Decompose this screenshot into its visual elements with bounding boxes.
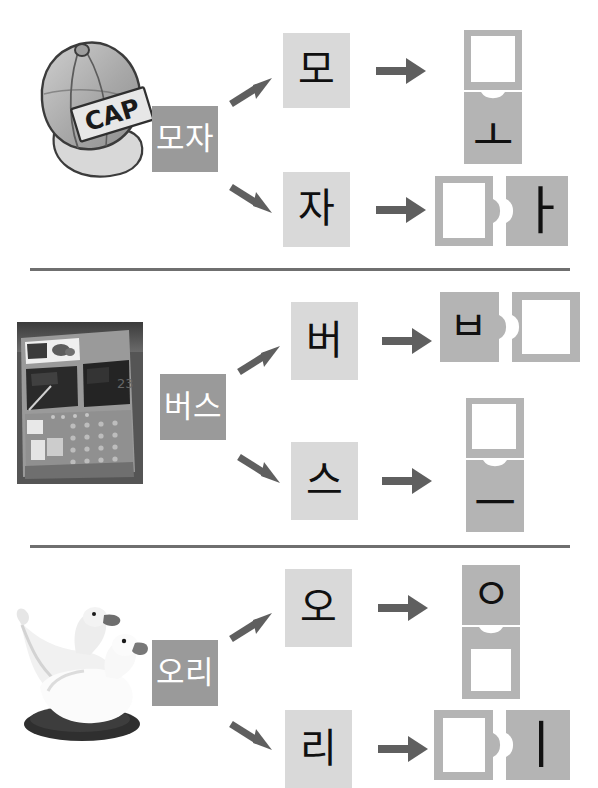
puzzle-piece-blank-siot[interactable] <box>466 398 524 458</box>
syllable-box-seu[interactable]: 스 <box>291 442 358 520</box>
syllable-box-mo[interactable]: 모 <box>283 33 350 108</box>
result-arrow-mo <box>376 58 428 84</box>
branch-arrow-up-o <box>228 609 278 645</box>
worksheet-row-cap: CAP 모자 모 <box>0 0 598 270</box>
puzzle-piece-blank-rieul[interactable] <box>434 710 505 780</box>
syllable-box-ja[interactable]: 자 <box>283 172 350 247</box>
word-box-ori[interactable]: 오리 <box>152 640 218 706</box>
cap-illustration: CAP <box>18 30 158 185</box>
result-arrow-o <box>378 595 430 621</box>
puzzle-piece-consonant-bieup[interactable]: ㅂ <box>440 292 511 362</box>
word-box-moja[interactable]: 모자 <box>152 106 218 172</box>
puzzle-piece-blank-eo[interactable] <box>512 292 580 362</box>
branch-arrow-down-seu <box>236 452 286 488</box>
puzzle-piece-blank-o[interactable] <box>462 627 520 699</box>
puzzle-piece-vowel-o[interactable]: ㅗ <box>464 92 522 164</box>
syllable-box-o[interactable]: 오 <box>285 569 352 647</box>
syllable-box-ri[interactable]: 리 <box>285 710 352 788</box>
syllable-box-beo[interactable]: 버 <box>291 302 358 380</box>
puzzle-piece-blank-jieut[interactable] <box>435 176 505 246</box>
branch-arrow-down-ja <box>228 182 278 218</box>
branch-arrow-up-beo <box>236 342 286 378</box>
branch-arrow-up-mo <box>228 74 278 110</box>
worksheet-row-bus: 23 <box>0 270 598 530</box>
result-arrow-ja <box>376 197 428 223</box>
puzzle-piece-vowel-a[interactable]: ㅏ <box>506 176 568 246</box>
result-arrow-beo <box>382 328 434 354</box>
branch-arrow-down-ri <box>228 719 278 755</box>
result-arrow-seu <box>382 468 434 494</box>
word-box-beoseu[interactable]: 버스 <box>160 374 226 440</box>
puzzle-piece-blank-mieum[interactable] <box>464 30 522 90</box>
puzzle-piece-consonant-ieung[interactable]: ㅇ <box>462 565 520 625</box>
svg-text:23: 23 <box>117 376 134 391</box>
puzzle-piece-vowel-eu[interactable]: ㅡ <box>466 460 524 532</box>
worksheet-row-duck: 오리 오 ㅇ <box>0 547 598 787</box>
duck-photo <box>10 591 150 746</box>
bus-photo: 23 <box>17 322 143 484</box>
puzzle-piece-vowel-i[interactable]: ㅣ <box>506 710 570 780</box>
result-arrow-ri <box>378 736 430 762</box>
